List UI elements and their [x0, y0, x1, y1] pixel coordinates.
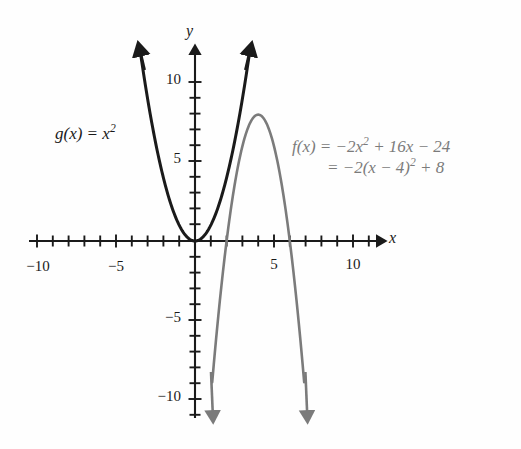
x-tick-label-pos10: 10: [338, 256, 368, 273]
x-tick-label-neg10: −10: [18, 258, 58, 275]
y-tick-label-neg10: −10: [138, 388, 181, 405]
y-axis: [189, 52, 202, 418]
annotation-f-equation: f(x) = −2x2 + 16x − 24= −2(x − 4)2 + 8: [292, 136, 450, 179]
annotation-g-text: g(x) = x: [55, 124, 110, 143]
curve-g-arrow-right: [246, 52, 250, 70]
annotation-f-line2-post: + 8: [416, 158, 444, 177]
x-tick-label-pos5: 5: [262, 256, 286, 273]
annotation-g-equation: g(x) = x2: [55, 123, 116, 144]
graph-figure: x y −10 −5 5 10 10 5 −5 −10 g(x) = x2 f(…: [0, 0, 521, 449]
y-tick-label-pos5: 5: [151, 150, 181, 167]
annotation-f-line1-post: + 16x − 24: [369, 137, 451, 156]
x-tick-label-neg5: −5: [99, 258, 133, 275]
cartesian-plot: [0, 0, 521, 449]
annotation-f-line1: f(x) = −2x2 + 16x − 24: [292, 137, 450, 156]
annotation-f-line2-pre: = −2(x − 4): [327, 158, 410, 177]
y-tick-label-neg5: −5: [145, 309, 181, 326]
annotation-g-exponent: 2: [110, 122, 116, 135]
annotation-f-line1-pre: f(x) = −2x: [292, 137, 363, 156]
annotation-f-line2: = −2(x − 4)2 + 8: [292, 157, 450, 178]
curve-f-arrow-right: [305, 372, 307, 414]
curve-g-arrow-left: [140, 52, 144, 70]
curve-f-arrow-left: [211, 372, 213, 414]
y-axis-label: y: [186, 22, 193, 40]
x-axis-label: x: [389, 229, 396, 247]
y-tick-label-pos10: 10: [151, 71, 181, 88]
curve-f-downward-parabola: [212, 115, 304, 383]
